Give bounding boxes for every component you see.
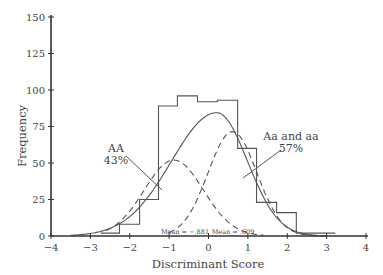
y-tick-label: 25 <box>32 194 45 205</box>
x-tick-label: 4 <box>363 242 369 253</box>
y-tick-label: 50 <box>32 158 45 169</box>
x-tick-label: 1 <box>245 242 251 253</box>
histogram-outline <box>101 96 336 233</box>
annotation-pointer <box>126 156 162 190</box>
x-tick-label: −3 <box>83 242 98 253</box>
mean-label: Mean = .609 <box>212 228 255 236</box>
x-tick-label: −1 <box>162 242 177 253</box>
y-axis-title: Frequency <box>15 104 29 167</box>
x-tick-label: 0 <box>205 242 211 253</box>
y-tick-label: 75 <box>32 121 45 132</box>
annotation-label: 57% <box>279 142 303 155</box>
y-tick-label: 150 <box>26 12 45 23</box>
annotation-label: 43% <box>104 154 128 167</box>
mean-label: Mean = −.881 <box>161 228 209 236</box>
annotations: AA43%Aa and aa57%Mean = −.881Mean = .609 <box>104 130 319 236</box>
x-axis-title: Discriminant Score <box>152 257 265 271</box>
histogram-chart: −4−3−2−1012340255075100125150 AA43%Aa an… <box>0 0 383 275</box>
histogram-bars <box>101 96 336 233</box>
x-tick-label: −2 <box>122 242 137 253</box>
y-tick-label: 100 <box>26 85 45 96</box>
y-tick-label: 125 <box>26 48 45 59</box>
chart-svg: −4−3−2−1012340255075100125150 AA43%Aa an… <box>0 0 383 275</box>
x-tick-label: 3 <box>323 242 329 253</box>
x-tick-label: 2 <box>284 242 290 253</box>
x-tick-label: −4 <box>44 242 59 253</box>
y-tick-label: 0 <box>39 231 45 242</box>
